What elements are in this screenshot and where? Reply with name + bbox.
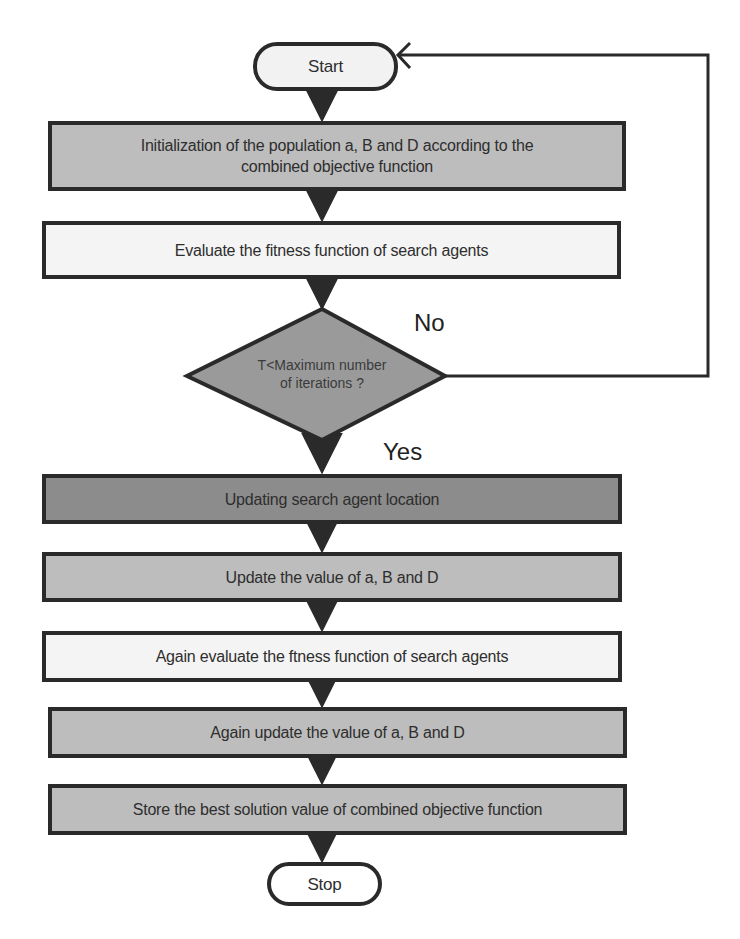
update-values-label: Update the value of a, B and D [226, 567, 439, 588]
no-label: No [414, 309, 445, 337]
update-location-label: Updating search agent location [225, 489, 440, 510]
init-population-line1: Initialization of the population a, B an… [141, 135, 534, 156]
store-best-label: Store the best solution value of combine… [133, 799, 543, 820]
start-terminal: Start [253, 42, 398, 91]
update-location-box: Updating search agent location [42, 474, 622, 524]
yes-label: Yes [383, 438, 422, 466]
stop-terminal: Stop [267, 862, 382, 906]
init-population-line2: combined objective function [241, 156, 433, 177]
again-evaluate-box: Again evaluate the ftness function of se… [42, 631, 622, 682]
init-population-box: Initialization of the population a, B an… [48, 121, 626, 191]
decision-label-line2: of iterations ? [222, 374, 422, 392]
again-evaluate-label: Again evaluate the ftness function of se… [156, 646, 509, 667]
start-label: Start [308, 56, 343, 77]
again-update-label: Again update the value of a, B and D [210, 722, 464, 743]
store-best-box: Store the best solution value of combine… [48, 784, 627, 835]
evaluate-fitness-box: Evaluate the fitness function of search … [42, 221, 621, 279]
flowchart: Start Initialization of the population a… [0, 0, 740, 939]
decision-label-line1: T<Maximum number [222, 356, 422, 374]
update-values-box: Update the value of a, B and D [42, 552, 622, 602]
arrow-decision-no-loop [400, 55, 708, 376]
again-update-box: Again update the value of a, B and D [48, 707, 627, 758]
stop-label: Stop [307, 874, 341, 895]
evaluate-fitness-label: Evaluate the fitness function of search … [175, 240, 489, 261]
decision-label: T<Maximum number of iterations ? [222, 356, 422, 392]
